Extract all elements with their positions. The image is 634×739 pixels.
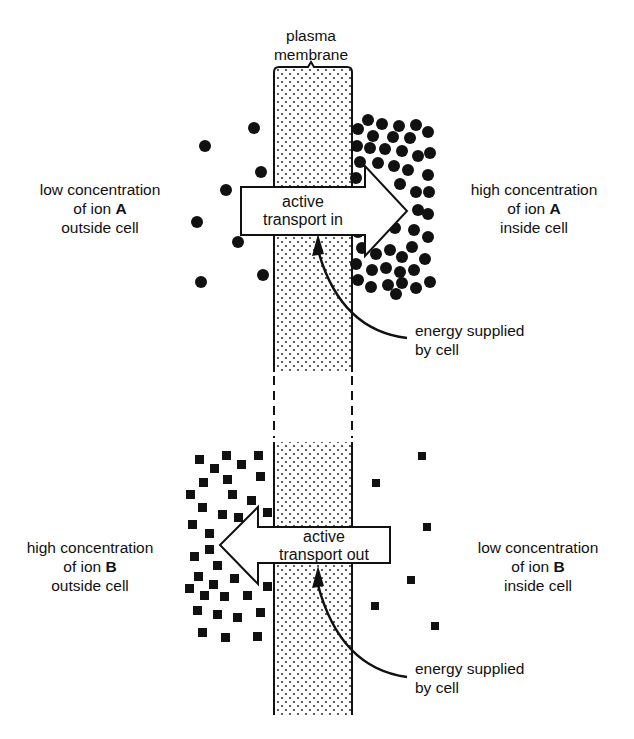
membrane-label-line2: membrane [241,45,381,64]
ion-b-inside-label: low concentration of ion B inside cell [438,538,634,595]
membrane-label: plasma membrane [241,26,381,64]
ion-b-outside-line1: high concentration [0,538,190,557]
ion-b-inside-line1: low concentration [438,538,634,557]
ion-a-name: A [116,200,127,217]
ion-a-outside-line1: low concentration [0,180,200,199]
active-transport-out-label: active transport out [258,528,390,564]
ion-b-outside-line2: of ion B [0,557,190,576]
ion-a-outside-label: low concentration of ion A outside cell [0,180,200,237]
ion-a-inside-line3: inside cell [434,218,634,237]
active-transport-diagram [0,0,634,739]
ion-a-inside-line1: high concentration [434,180,634,199]
ion-b-inside-line2: of ion B [438,557,634,576]
ion-b-name: B [106,558,117,575]
ion-b-inside-line3: inside cell [438,576,634,595]
membrane-label-line1: plasma [241,26,381,45]
ion-b-outside-line3: outside cell [0,576,190,595]
plasma-membrane-lower [274,442,352,715]
plasma-membrane-gap [274,376,352,438]
active-transport-in-label: active transport in [241,193,365,229]
ion-b-outside-label: high concentration of ion B outside cell [0,538,190,595]
ion-a-outside-line3: outside cell [0,218,200,237]
ion-a-inside-label: high concentration of ion A inside cell [434,180,634,237]
ion-a-inside-line2: of ion A [434,199,634,218]
energy-supplied-label-b: energy supplied by cell [415,659,524,697]
energy-supplied-label-a: energy supplied by cell [415,321,524,359]
ion-a-outside-line2: of ion A [0,199,200,218]
